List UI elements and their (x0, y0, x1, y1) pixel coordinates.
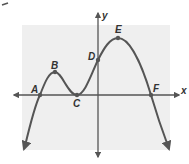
svg-text:D: D (88, 51, 95, 62)
function-graph: x y A B C D E F (0, 0, 189, 164)
svg-text:E: E (115, 24, 122, 35)
svg-text:C: C (73, 98, 81, 109)
curve-left-arrow (24, 146, 25, 149)
curve-right-arrow (168, 146, 169, 149)
y-axis-label: y (101, 10, 108, 21)
svg-text:B: B (51, 60, 58, 71)
svg-text:A: A (30, 84, 38, 95)
x-axis-label: x (180, 85, 187, 96)
svg-text:F: F (153, 83, 160, 94)
cropped-arrow-icon (2, 3, 8, 5)
